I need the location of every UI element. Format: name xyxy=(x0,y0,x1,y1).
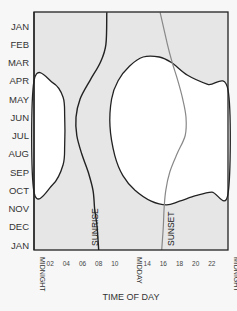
y-tick-label: SEP xyxy=(10,167,29,178)
y-tick-label: MAY xyxy=(9,94,30,105)
x-tick-label: 20 xyxy=(192,260,200,267)
x-axis-title: TIME OF DAY xyxy=(103,292,160,302)
x-tick-label: 08 xyxy=(95,260,103,267)
sunrise-sunset-chart: JANFEBMARAPRMAYJUNJULAUGSEPOCTNOVDECJAN … xyxy=(0,0,237,311)
x-tick-label: 22 xyxy=(208,260,216,267)
y-tick-label: OCT xyxy=(9,185,29,196)
sunrise-label: SUNRISE xyxy=(90,208,100,246)
x-tick-label: 02 xyxy=(47,260,55,267)
x-tick-label: 06 xyxy=(79,260,87,267)
x-tick-label: 16 xyxy=(160,260,168,267)
y-tick-label: NOV xyxy=(8,203,29,214)
x-tick-label: 04 xyxy=(63,260,71,267)
y-tick-label: APR xyxy=(9,75,29,86)
x-tick-label: MIDNIGHT xyxy=(39,257,46,292)
y-tick-label: JUN xyxy=(11,112,30,123)
x-tick-label: 10 xyxy=(111,260,119,267)
y-tick-label: JUL xyxy=(12,130,29,141)
x-tick-label: 14 xyxy=(144,260,152,267)
y-tick-label: DEC xyxy=(9,221,29,232)
x-tick-label: MIDDAY xyxy=(136,257,143,284)
y-tick-label: JAN xyxy=(11,240,29,251)
y-tick-label: FEB xyxy=(11,39,29,50)
x-tick-label: MIDNIGHT xyxy=(233,257,237,292)
y-tick-label: AUG xyxy=(8,148,29,159)
sunset-label: SUNSET xyxy=(166,212,176,246)
y-tick-label: JAN xyxy=(11,21,29,32)
y-tick-label: MAR xyxy=(8,57,29,68)
x-tick-label: 18 xyxy=(176,260,184,267)
